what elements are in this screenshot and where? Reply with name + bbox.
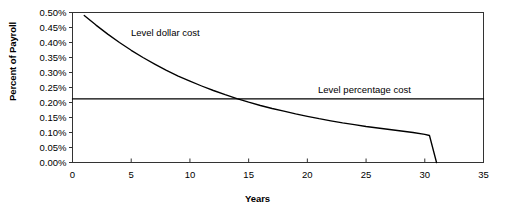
annotation-level-percentage-cost: Level percentage cost	[318, 84, 411, 95]
y-tick-label: 0.45%	[21, 23, 67, 33]
y-tick-label: 0.15%	[21, 113, 67, 123]
x-tick-label: 0	[53, 170, 93, 180]
y-tick-label: 0.50%	[21, 8, 67, 18]
x-axis-title: Years	[0, 193, 515, 204]
x-tick-label: 5	[111, 170, 151, 180]
x-tick-label: 35	[464, 170, 504, 180]
y-axis-title: Percent of Payroll	[7, 7, 18, 117]
y-tick-label: 0.00%	[21, 158, 67, 168]
chart-plot-area	[0, 0, 515, 222]
y-tick-label: 0.10%	[21, 128, 67, 138]
y-tick-label: 0.25%	[21, 83, 67, 93]
y-tick-label: 0.20%	[21, 98, 67, 108]
y-tick-label: 0.40%	[21, 38, 67, 48]
annotation-level-dollar-cost: Level dollar cost	[131, 27, 200, 38]
y-tick-label: 0.30%	[21, 68, 67, 78]
y-tick-label: 0.05%	[21, 143, 67, 153]
x-tick-label: 15	[229, 170, 269, 180]
chart-container: Percent of Payroll Years 0.00%0.05%0.10%…	[0, 0, 515, 222]
y-axis-tick-marks	[69, 13, 73, 163]
x-tick-label: 30	[405, 170, 445, 180]
x-tick-label: 10	[170, 170, 210, 180]
y-tick-label: 0.35%	[21, 53, 67, 63]
x-tick-label: 20	[287, 170, 327, 180]
x-tick-label: 25	[346, 170, 386, 180]
